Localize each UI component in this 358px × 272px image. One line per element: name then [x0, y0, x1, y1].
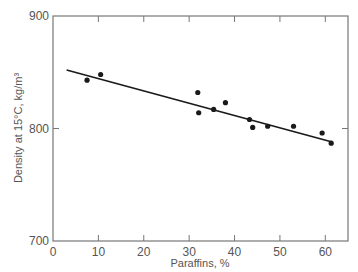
data-point: [247, 117, 252, 122]
x-tick-label: 50: [273, 245, 287, 259]
y-tick-label: 700: [29, 234, 49, 248]
x-tick-label: 60: [319, 245, 333, 259]
y-axis-ticks: 700800900: [29, 9, 348, 248]
y-tick-label: 800: [29, 122, 49, 136]
x-tick-label: 0: [50, 245, 57, 259]
chart-canvas: 0102030405060 700800900 Paraffins, % Den…: [0, 0, 358, 272]
x-tick-label: 20: [137, 245, 151, 259]
data-point: [196, 110, 201, 115]
data-point: [265, 124, 270, 129]
x-tick-label: 40: [228, 245, 242, 259]
data-point: [84, 78, 89, 83]
data-point: [195, 90, 200, 95]
regression-line: [67, 70, 333, 142]
x-tick-label: 10: [92, 245, 106, 259]
x-axis-ticks: 0102030405060: [50, 16, 333, 259]
fit-line-path: [67, 70, 333, 142]
data-point: [320, 130, 325, 135]
y-tick-label: 900: [29, 9, 49, 23]
data-point: [211, 107, 216, 112]
plot-frame: [53, 16, 348, 241]
data-point: [329, 141, 334, 146]
data-point: [250, 125, 255, 130]
y-axis-label: Density at 15°C, kg/m³: [12, 73, 24, 183]
x-axis-label: Paraffins, %: [170, 257, 229, 269]
density-vs-paraffins-chart: 0102030405060 700800900 Paraffins, % Den…: [0, 0, 358, 272]
data-point: [98, 72, 103, 77]
data-point: [223, 100, 228, 105]
data-point: [291, 124, 296, 129]
